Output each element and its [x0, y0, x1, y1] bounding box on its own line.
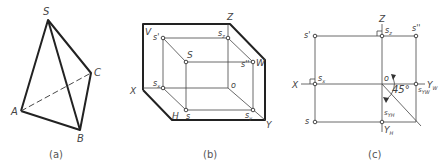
projection-diagram: S C A B (a) V Z X Y H W [0, 0, 445, 167]
label-s: s [186, 112, 190, 121]
point-s-x [161, 86, 165, 90]
point-s-yh [380, 120, 384, 124]
label-x: X [129, 86, 137, 96]
label-s-prime: s' [153, 33, 159, 42]
label-w: W [256, 58, 266, 68]
point-s-prime [161, 36, 165, 40]
label-s-yh: sYH [384, 109, 395, 118]
label-yh: YH [384, 125, 394, 136]
point-s-z [380, 34, 384, 38]
figure-c-orthographic: Z X YW YH s' sz s'' sx o 45° sYW s sYH (… [291, 14, 439, 160]
point-s-double-prime [251, 60, 255, 64]
label-s-x: sx [153, 79, 160, 89]
point-s-z [226, 36, 230, 40]
point-s-double-prime [414, 34, 418, 38]
label-z: Z [378, 14, 386, 24]
label-s-z: sz [385, 26, 392, 36]
label-x: X [291, 80, 299, 90]
point-s-x [313, 82, 317, 86]
proj-line [163, 38, 186, 62]
label-y: Y [266, 120, 273, 130]
label-S: S [187, 50, 193, 60]
tetrahedron-outline [21, 20, 91, 130]
caption-a: (a) [49, 149, 63, 160]
point-S [184, 60, 188, 64]
label-o: o [231, 81, 236, 90]
vertex-label-b: B [77, 133, 84, 144]
proj-line [228, 38, 253, 62]
label-angle-45: 45° [392, 84, 410, 95]
label-s-double-prime: s'' [241, 60, 250, 69]
label-s-x: sx [318, 74, 325, 84]
caption-c: (c) [368, 149, 381, 160]
vertex-label-a: A [10, 106, 18, 117]
label-v: V [145, 27, 152, 37]
point-s-y [251, 108, 255, 112]
edge-sb [48, 20, 80, 130]
point-s-prime [313, 34, 317, 38]
label-s-z: sz [218, 29, 225, 39]
figure-b-projection-box: V Z X Y H W s' sz S s'' sx o s sy (b) [129, 12, 273, 160]
vertex-label-c: C [94, 67, 101, 78]
arrow-head-icon [391, 74, 396, 80]
point-s [313, 120, 317, 124]
proj-line [163, 88, 186, 110]
label-o: o [384, 74, 389, 83]
label-z: Z [226, 12, 234, 22]
label-s-double-prime: s'' [412, 24, 421, 33]
vertex-label-s: S [43, 6, 50, 17]
figure-a-tetrahedron: S C A B (a) [10, 6, 101, 160]
label-s-prime: s' [304, 31, 310, 40]
caption-b: (b) [203, 149, 217, 160]
label-s: s [305, 117, 309, 126]
label-h: H [172, 111, 179, 121]
arrow-head-icon [383, 97, 389, 103]
